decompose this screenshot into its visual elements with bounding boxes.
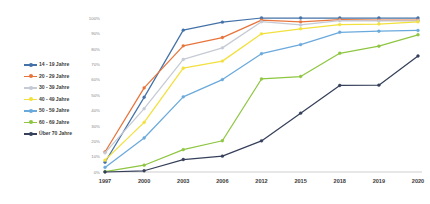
data-point	[260, 78, 263, 81]
y-tick-label: 0%	[94, 170, 100, 175]
data-point	[417, 29, 420, 32]
y-tick-label: 100%	[89, 16, 100, 21]
line-chart: 14 - 19 Jahre 20 - 29 Jahre 30 - 39 Jahr…	[0, 0, 430, 204]
data-point	[299, 75, 302, 78]
series-layer	[104, 17, 420, 174]
data-point	[104, 166, 107, 169]
data-point	[299, 23, 302, 26]
data-point	[377, 84, 380, 87]
data-point	[417, 20, 420, 23]
data-point	[143, 121, 146, 124]
x-tick-label: 2006	[216, 178, 228, 184]
data-point	[143, 137, 146, 140]
data-point	[338, 31, 341, 34]
chart-canvas: 0%10%20%30%40%50%60%70%80%90%100% 199720…	[0, 0, 430, 204]
data-point	[299, 112, 302, 115]
series-line	[105, 20, 418, 152]
data-point	[143, 96, 146, 99]
data-point	[182, 148, 185, 151]
data-point	[221, 36, 224, 39]
data-point	[143, 169, 146, 172]
y-tick-label: 80%	[91, 47, 100, 52]
y-axis-tick-labels: 0%10%20%30%40%50%60%70%80%90%100%	[89, 16, 100, 175]
data-point	[104, 159, 107, 162]
data-point	[143, 164, 146, 167]
x-tick-label: 2003	[177, 178, 189, 184]
data-point	[417, 55, 420, 58]
data-point	[338, 23, 341, 26]
data-point	[221, 139, 224, 142]
data-point	[182, 158, 185, 161]
data-point	[377, 19, 380, 22]
y-tick-label: 30%	[91, 124, 100, 129]
series-line	[105, 21, 418, 153]
data-point	[143, 107, 146, 110]
data-point	[260, 32, 263, 35]
data-point	[221, 46, 224, 49]
data-point	[143, 86, 146, 89]
data-point	[260, 52, 263, 55]
y-tick-label: 20%	[91, 139, 100, 144]
y-tick-label: 70%	[91, 62, 100, 67]
data-point	[260, 139, 263, 142]
data-point	[417, 33, 420, 36]
y-tick-label: 40%	[91, 108, 100, 113]
x-axis-tick-labels: 199720002003200620122015201820192020	[99, 178, 424, 184]
data-point	[377, 45, 380, 48]
data-point	[182, 58, 185, 61]
y-tick-label: 90%	[91, 31, 100, 36]
data-point	[221, 21, 224, 24]
data-point	[182, 44, 185, 47]
data-point	[221, 155, 224, 158]
data-point	[377, 30, 380, 33]
data-point	[377, 23, 380, 26]
x-tick-label: 2000	[138, 178, 150, 184]
y-tick-label: 10%	[91, 154, 100, 159]
x-tick-label: 1997	[99, 178, 111, 184]
series-line	[105, 56, 418, 172]
data-point	[182, 95, 185, 98]
data-point	[182, 67, 185, 70]
data-point	[299, 20, 302, 23]
y-tick-label: 60%	[91, 77, 100, 82]
x-tick-label: 2015	[294, 178, 306, 184]
data-point	[299, 27, 302, 30]
data-point	[299, 43, 302, 46]
data-point	[221, 60, 224, 63]
data-point	[338, 52, 341, 55]
y-tick-label: 50%	[91, 93, 100, 98]
data-point	[338, 84, 341, 87]
data-point	[104, 151, 107, 154]
series-5	[104, 29, 420, 169]
data-point	[260, 20, 263, 23]
x-tick-label: 2020	[412, 178, 424, 184]
data-point	[221, 78, 224, 81]
plot-area: 0%10%20%30%40%50%60%70%80%90%100% 199720…	[0, 0, 430, 204]
data-point	[104, 171, 107, 174]
x-tick-label: 2019	[373, 178, 385, 184]
x-tick-label: 2018	[334, 178, 346, 184]
data-point	[299, 17, 302, 20]
x-tick-label: 2012	[255, 178, 267, 184]
data-point	[338, 19, 341, 22]
data-point	[182, 29, 185, 32]
